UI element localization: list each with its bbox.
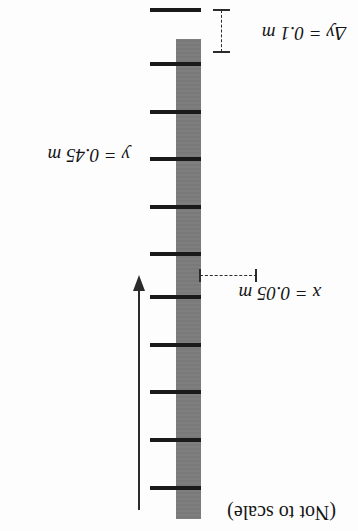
delta-y-measure-cap-top [213,52,230,54]
x-measure-dashed-line [200,275,257,276]
y-measurement-label: y = 0.45 m [48,146,130,165]
ruler-tick [150,390,201,394]
delta-y-measure-dashed-line [221,10,222,52]
delta-y-measure-cap-bottom [213,10,230,12]
ruler-tick [150,62,201,66]
ruler-tick [150,252,201,256]
delta-y-measurement-label: Δy = 0.1 m [262,24,346,43]
x-measurement-label: x = 0.05 m [239,284,321,303]
ruler-tick [150,205,201,209]
ruler-tick [150,438,201,442]
x-measure-cap-right [200,269,202,282]
physics-diagram-figure: (Not to scale) x = 0.05 m y = 0.45 m Δy … [0,0,358,531]
y-measure-arrowhead-icon [134,275,146,291]
ruler-tick [150,295,201,299]
ruler-tick [150,486,201,490]
rotated-scan-canvas: (Not to scale) x = 0.05 m y = 0.45 m Δy … [0,0,358,531]
x-measure-cap-left [256,269,258,282]
ruler-tick [150,110,201,114]
ruler-tick [150,8,201,12]
ruler-tick [150,343,201,347]
y-measure-arrow-shaft [138,285,140,510]
ruler-tick [150,157,201,161]
not-to-scale-caption: (Not to scale) [227,503,336,523]
